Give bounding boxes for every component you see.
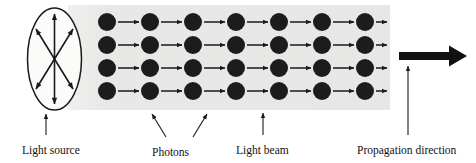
- photon: [270, 36, 288, 54]
- photon: [184, 82, 202, 100]
- photon: [184, 36, 202, 54]
- photon: [141, 82, 159, 100]
- photon: [184, 13, 202, 31]
- photon: [356, 36, 374, 54]
- light-source-label: Light source: [22, 144, 80, 157]
- photon: [227, 13, 245, 31]
- propagation-arrow: [399, 46, 467, 67]
- photon: [98, 82, 116, 100]
- photon: [313, 82, 331, 100]
- photon: [313, 36, 331, 54]
- light-source-group: [28, 8, 82, 110]
- photon: [98, 13, 116, 31]
- propagation-direction-label: Propagation direction: [357, 144, 457, 157]
- photon: [270, 82, 288, 100]
- photon: [227, 36, 245, 54]
- photon: [227, 59, 245, 77]
- photon: [184, 59, 202, 77]
- photon: [98, 59, 116, 77]
- photon: [270, 13, 288, 31]
- light-beam-label: Light beam: [236, 144, 289, 157]
- photon: [141, 13, 159, 31]
- photon: [270, 59, 288, 77]
- photon: [356, 59, 374, 77]
- diagram-canvas: Light source Photons Light beam Propagat…: [0, 0, 476, 163]
- photon: [98, 36, 116, 54]
- photons-leader-left: [152, 114, 166, 137]
- light-beam-diagram: Light source Photons Light beam Propagat…: [0, 0, 476, 163]
- photon: [141, 59, 159, 77]
- photons-label: Photons: [152, 146, 190, 158]
- photon: [356, 82, 374, 100]
- photon: [313, 13, 331, 31]
- photon: [313, 59, 331, 77]
- photon: [227, 82, 245, 100]
- photon: [141, 36, 159, 54]
- photons-leader-right: [193, 114, 207, 137]
- photon: [356, 13, 374, 31]
